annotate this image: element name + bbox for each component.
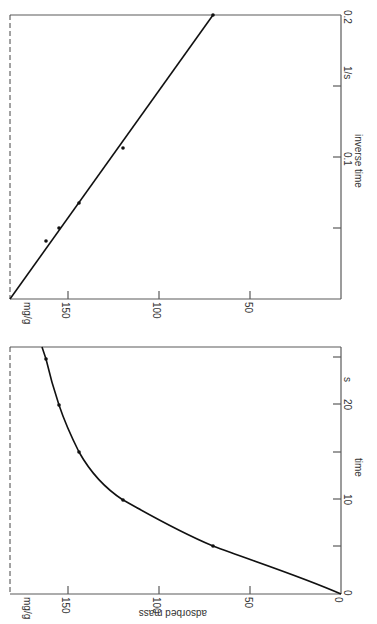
x-tick-label-20: 20 xyxy=(342,399,353,411)
data-point xyxy=(211,544,215,548)
y-tick-label-100: 100 xyxy=(151,302,162,319)
x-axis-title: time xyxy=(353,458,364,477)
x-tick-label-0: 0 xyxy=(342,590,353,596)
data-point xyxy=(121,146,125,150)
x-unit-label: s xyxy=(342,377,353,382)
linear-fit-line xyxy=(10,15,213,299)
data-point xyxy=(44,239,48,243)
data-point xyxy=(211,13,215,17)
x-tick-label-0.1: 0.1 xyxy=(342,152,353,166)
x-tick-label-10: 10 xyxy=(342,494,353,506)
y-tick-label-50: 50 xyxy=(243,597,254,609)
adsorption-curve xyxy=(42,347,341,594)
time-plot: mg/g 150 100 50 0 adsorbed mass 0 10 20 … xyxy=(10,347,364,619)
y-tick-label-150: 150 xyxy=(60,597,71,614)
data-point xyxy=(44,357,48,361)
data-point xyxy=(121,498,125,502)
data-point xyxy=(77,450,81,454)
data-point xyxy=(77,201,81,205)
x-unit-label: 1/s xyxy=(342,66,353,79)
y-unit-label: mg/g xyxy=(22,302,33,324)
y-tick-label-150: 150 xyxy=(60,302,71,319)
inverse-time-plot: mg/g 150 100 50 0.1 0.2 1/s inverse time xyxy=(10,10,364,324)
data-point xyxy=(57,403,61,407)
y-tick-label-0: 0 xyxy=(333,597,344,603)
y-tick-label-50: 50 xyxy=(243,302,254,314)
y-unit-label: mg/g xyxy=(22,597,33,619)
x-axis-title: inverse time xyxy=(353,134,364,188)
data-point xyxy=(57,226,61,230)
y-axis-title: adsorbed mass xyxy=(139,608,207,619)
figure: mg/g 150 100 50 0.1 0.2 1/s inverse time… xyxy=(0,0,377,624)
x-tick-label-0.2: 0.2 xyxy=(342,10,353,24)
